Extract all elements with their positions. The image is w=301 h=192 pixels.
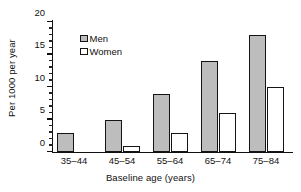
bar-women-55-64	[171, 133, 188, 153]
bar-men-35-44	[57, 133, 74, 153]
y-tick-minor	[49, 47, 53, 48]
y-tick-minor	[49, 131, 53, 132]
y-tick-minor	[49, 144, 53, 145]
legend-item-women: Women	[80, 46, 122, 57]
x-category-label: 65–74	[205, 156, 231, 166]
bar-men-45-54	[105, 120, 122, 153]
y-tick-major	[47, 86, 53, 87]
y-tick-minor	[49, 27, 53, 28]
y-tick-major	[47, 21, 53, 22]
x-category-label: 55–64	[157, 156, 183, 166]
y-tick-minor	[49, 60, 53, 61]
y-tick-major	[47, 118, 53, 119]
bar-women-65-74	[219, 113, 236, 152]
y-tick-minor	[49, 79, 53, 80]
y-tick-label: 10	[34, 73, 45, 83]
y-tick-minor	[49, 125, 53, 126]
open-white-square-icon	[80, 48, 88, 55]
filled-gray-square-icon	[80, 35, 88, 42]
y-tick-label: 15	[34, 40, 45, 50]
y-tick-minor	[49, 138, 53, 139]
y-tick-major	[47, 151, 53, 152]
chart-legend: MenWomen	[80, 33, 122, 59]
bar-men-65-74	[201, 61, 218, 152]
y-tick-minor	[49, 66, 53, 67]
x-category-label: 75–84	[253, 156, 279, 166]
x-category-label: 45–54	[109, 156, 135, 166]
y-tick-minor	[49, 40, 53, 41]
y-tick-minor	[49, 92, 53, 93]
y-tick-label: 0	[40, 138, 45, 148]
bar-women-75-84	[267, 87, 284, 152]
legend-item-men: Men	[80, 33, 122, 44]
y-tick-major	[47, 53, 53, 54]
x-axis-title: Baseline age (years)	[0, 172, 301, 183]
y-tick-minor	[49, 99, 53, 100]
bar-women-45-54	[123, 146, 140, 153]
y-tick-minor	[49, 73, 53, 74]
bar-men-55-64	[153, 94, 170, 153]
bar-chart-figure: Per 1000 per year 05101520 35–4445–5455–…	[0, 0, 301, 192]
bar-men-75-84	[249, 35, 266, 152]
y-tick-minor	[49, 34, 53, 35]
y-tick-minor	[49, 112, 53, 113]
legend-label: Women	[90, 47, 123, 57]
y-tick-label: 20	[34, 8, 45, 18]
y-tick-minor	[49, 105, 53, 106]
legend-label: Men	[90, 34, 108, 44]
x-category-label: 35–44	[61, 156, 87, 166]
y-tick-label: 5	[40, 105, 45, 115]
y-axis-title: Per 1000 per year	[4, 4, 20, 152]
